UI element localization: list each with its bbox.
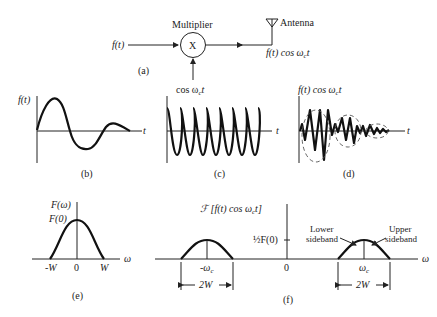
y-axis-label: F(ω) — [50, 199, 71, 211]
output-signal-label: f(t) cos ωct — [266, 47, 310, 60]
x-axis-label: t — [276, 125, 279, 136]
caption-b: (b) — [81, 168, 93, 180]
x-axis-label: t — [143, 125, 146, 136]
upper-sideband-label-2: sideband — [385, 234, 417, 244]
lower-sideband-label-1: Lower — [310, 224, 334, 234]
antenna-label: Antenna — [280, 17, 314, 28]
lower-sideband-arrow — [340, 238, 356, 245]
baseband-waveform — [37, 98, 130, 149]
tick-w: W — [100, 262, 110, 273]
tick-zero: 0 — [284, 262, 289, 273]
panel-b-baseband-signal: f(t) t (b) — [18, 94, 146, 180]
panel-a-block-diagram: f(t) Multiplier X cos ωct (a) Antenna f(… — [112, 17, 314, 97]
panel-e-baseband-spectrum: F(ω) F(0) -W 0 W ω (e) — [32, 199, 131, 302]
lower-sideband-label-2: sideband — [306, 234, 338, 244]
caption-e: (e) — [72, 290, 83, 302]
upper-sideband-arrow — [372, 238, 386, 245]
bandwidth-label: 2W — [199, 279, 214, 290]
antenna-icon — [266, 19, 278, 27]
upper-sideband-label-1: Upper — [389, 224, 412, 234]
multiplier-title: Multiplier — [172, 19, 213, 30]
y-axis-label: ℱ [f(t) cos ωct] — [200, 203, 262, 216]
multiplier-symbol: X — [189, 40, 197, 51]
carrier-label: cos ωct — [176, 84, 205, 97]
tick-neg-wc: -ωc — [200, 262, 214, 275]
panel-d-modulated-signal: f(t) cos ωct t (d) — [298, 84, 410, 180]
caption-a: (a) — [138, 65, 149, 77]
tick-neg-w: -W — [45, 262, 58, 273]
bandwidth-label: 2W — [356, 279, 371, 290]
tick-zero: 0 — [74, 262, 79, 273]
modulated-waveform — [300, 110, 389, 160]
caption-c: (c) — [214, 168, 225, 180]
am-modulation-diagram: f(t) Multiplier X cos ωct (a) Antenna f(… — [0, 0, 437, 317]
x-axis-label: ω — [124, 253, 131, 264]
y-axis-label: f(t) — [18, 94, 31, 106]
x-axis-label: ω — [422, 253, 429, 264]
y-axis-label: f(t) cos ωct — [298, 84, 342, 97]
half-amplitude-label: ½F(0) — [253, 234, 278, 246]
peak-label: F(0) — [48, 213, 67, 225]
panel-f-modulated-spectrum: ℱ [f(t) cos ωct] ½F(0) -ωc 0 ωc ω Lower … — [155, 203, 429, 306]
panel-c-carrier: t (c) — [167, 96, 279, 180]
x-axis-label: t — [407, 125, 410, 136]
caption-f: (f) — [283, 294, 293, 306]
caption-d: (d) — [343, 168, 355, 180]
input-signal-label: f(t) — [112, 39, 125, 51]
tick-wc: ωc — [359, 262, 370, 275]
